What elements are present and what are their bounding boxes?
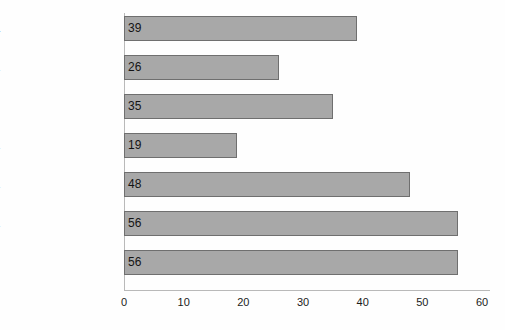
- bar[interactable]: [124, 211, 458, 236]
- bar[interactable]: [124, 133, 237, 158]
- bar-wrapper: 39: [124, 16, 357, 41]
- bar-wrapper: 48: [124, 172, 410, 197]
- bar[interactable]: [124, 94, 333, 119]
- bar-wrapper: 56: [124, 250, 458, 275]
- bar[interactable]: [124, 172, 410, 197]
- bar-chart: Africa39Asia26Eastern Central Europe35La…: [0, 0, 505, 330]
- x-axis-tick-label: 40: [343, 296, 383, 308]
- bar-wrapper: 26: [124, 55, 279, 80]
- x-axis-tick-label: 30: [283, 296, 323, 308]
- bar-wrapper: 19: [124, 133, 237, 158]
- bar[interactable]: [124, 16, 357, 41]
- bar-wrapper: 56: [124, 211, 458, 236]
- plot-area: Africa39Asia26Eastern Central Europe35La…: [0, 0, 505, 330]
- x-axis-tick-label: 0: [104, 296, 144, 308]
- bar-wrapper: 35: [124, 94, 333, 119]
- bar[interactable]: [124, 250, 458, 275]
- x-axis-tick-label: 60: [462, 296, 502, 308]
- x-axis-tick-label: 20: [223, 296, 263, 308]
- x-axis-line: [124, 290, 490, 291]
- bar[interactable]: [124, 55, 279, 80]
- x-axis-tick-label: 50: [402, 296, 442, 308]
- x-axis-tick-label: 10: [164, 296, 204, 308]
